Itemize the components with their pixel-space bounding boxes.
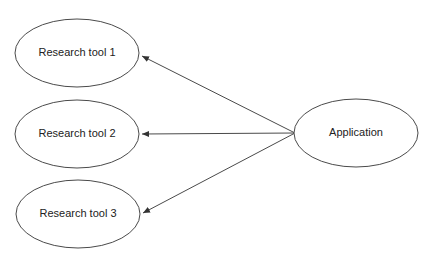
- node-research-tool-3[interactable]: Research tool 3: [16, 180, 140, 248]
- edge-app-to-tool3: [143, 133, 295, 213]
- node-research-tool-1[interactable]: Research tool 1: [15, 19, 139, 87]
- node-label: Application: [329, 126, 383, 138]
- node-application[interactable]: Application: [294, 99, 418, 167]
- node-label: Research tool 3: [39, 207, 116, 219]
- node-label: Research tool 1: [38, 46, 115, 58]
- edge-app-to-tool1: [142, 56, 295, 133]
- node-label: Research tool 2: [38, 127, 115, 139]
- node-research-tool-2[interactable]: Research tool 2: [15, 100, 139, 168]
- diagram-canvas: Research tool 1 Research tool 2 Research…: [0, 0, 433, 262]
- edge-app-to-tool2: [142, 133, 295, 134]
